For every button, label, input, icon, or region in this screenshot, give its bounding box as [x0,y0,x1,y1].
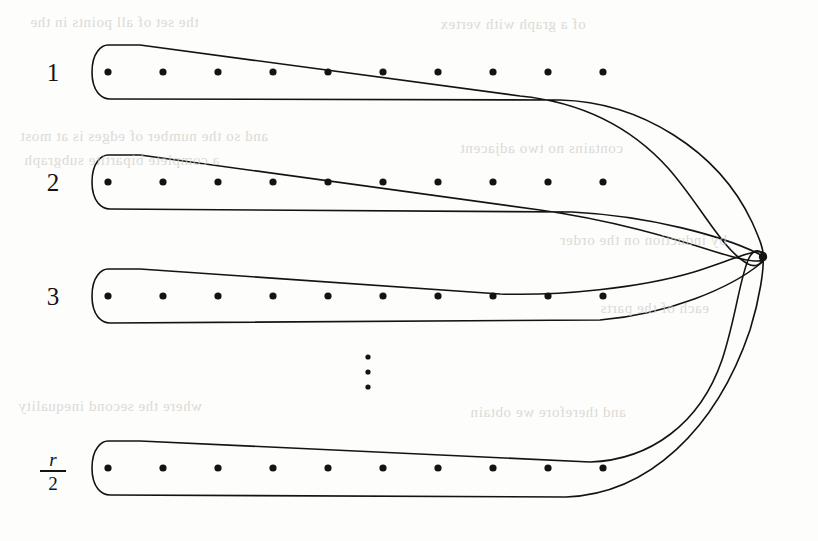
vertex-dot [489,464,496,471]
vertex-dot [599,68,606,75]
vertex-dot [269,68,276,75]
vertex-dot [489,292,496,299]
vertex-dot [379,292,386,299]
row-last-enclosure [92,251,763,497]
row-label-r-over-2: r 2 [40,450,66,493]
vertical-ellipsis-dot [365,369,370,374]
vertex-dot [214,464,221,471]
row-2-enclosure [92,155,764,261]
vertex-dot [104,68,111,75]
vertex-dot [544,178,551,185]
fraction-numerator: r [40,450,66,470]
vertex-dot [324,292,331,299]
row-ellipse-group [92,45,766,497]
vertex-dot [214,178,221,185]
apex-vertex-dot [759,253,767,261]
vertex-dot [269,292,276,299]
vertex-dot [434,464,441,471]
row-1-enclosure [92,45,763,266]
row-label-3: 3 [40,284,66,309]
vertex-dot [434,178,441,185]
vertex-dot [379,178,386,185]
vertex-dot [599,178,606,185]
vertex-dot [324,68,331,75]
vertex-dot [379,68,386,75]
vertical-ellipsis-dot [365,384,370,389]
vertex-dot [379,464,386,471]
vertex-dot [159,292,166,299]
vertex-dot [159,464,166,471]
row-3-enclosure [92,252,766,323]
vertex-dot [324,178,331,185]
vertex-dot [324,464,331,471]
vertex-dot [104,464,111,471]
vertex-dot [489,178,496,185]
figure-canvas [0,0,818,541]
vertex-dot [599,464,606,471]
vertex-dots [104,68,767,471]
fraction-denominator: 2 [40,473,66,493]
vertex-dot [434,68,441,75]
vertex-dot [104,178,111,185]
vertex-dot [214,292,221,299]
vertex-dot [599,292,606,299]
vertex-dot [489,68,496,75]
row-label-1: 1 [40,60,66,85]
vertex-dot [159,178,166,185]
vertical-ellipsis-dot [365,354,370,359]
vertex-dot [544,292,551,299]
fraction-bar [40,470,66,472]
vertex-dot [159,68,166,75]
vertex-dot [544,464,551,471]
vertex-dot [544,68,551,75]
row-label-2: 2 [40,170,66,195]
vertex-dot [434,292,441,299]
vertex-dot [269,464,276,471]
vertex-dot [104,292,111,299]
vertex-dot [269,178,276,185]
vertex-dot [214,68,221,75]
